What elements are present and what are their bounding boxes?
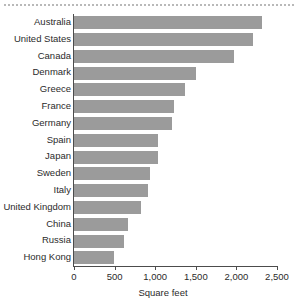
bar [74,16,262,29]
bar [74,67,196,80]
x-axis-title: Square feet [0,287,298,298]
category-label: Hong Kong [23,249,71,266]
x-tick-mark [74,266,75,270]
x-tick-mark [155,266,156,270]
x-tick-label: 2,500 [265,271,289,282]
category-label: Russia [42,232,71,249]
bar [74,218,128,231]
category-label: United States [14,31,71,48]
bar [74,83,185,96]
category-label: Spain [47,132,71,149]
bar [74,50,234,63]
bar [74,117,172,130]
category-label: Australia [34,14,71,31]
category-label: Canada [38,48,71,65]
bar [74,184,148,197]
x-tick-label: 1,500 [184,271,208,282]
plot-area: AustraliaUnited StatesCanadaDenmarkGreec… [74,14,277,266]
category-label: Italy [54,182,71,199]
category-label: Greece [40,81,71,98]
category-label: China [46,216,71,233]
category-label: France [41,98,71,115]
category-axis-line [73,266,278,267]
bar [74,134,158,147]
x-tick-label: 1,000 [143,271,167,282]
x-tick-mark [277,266,278,270]
x-tick-mark [115,266,116,270]
bar [74,151,158,164]
category-label: Japan [45,148,71,165]
x-tick-mark [196,266,197,270]
bar [74,201,141,214]
category-label: Denmark [32,64,71,81]
category-label: Germany [32,115,71,132]
top-dotted-rule [4,4,294,6]
bar [74,167,150,180]
category-label: United Kingdom [3,199,71,216]
category-label: Sweden [37,165,71,182]
x-axis-title-text: Square feet [138,287,187,298]
x-tick-label: 0 [71,271,76,282]
bar-chart-figure: AustraliaUnited StatesCanadaDenmarkGreec… [0,0,298,305]
x-tick-label: 500 [107,271,123,282]
bar [74,100,174,113]
bar [74,251,114,264]
x-tick-mark [236,266,237,270]
x-tick-label: 2,000 [225,271,249,282]
bar [74,33,253,46]
bar [74,235,124,248]
